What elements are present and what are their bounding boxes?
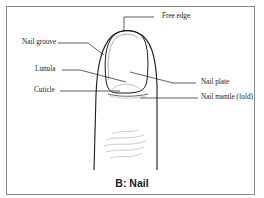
label-free-edge: Free edge: [162, 13, 190, 20]
nail-plate-outline: [105, 31, 148, 94]
label-nail-groove: Nail groove: [22, 39, 56, 46]
leader-nail-plate: [130, 72, 196, 83]
label-cuticle: Cuticle: [34, 87, 55, 94]
label-nail-plate: Nail plate: [201, 79, 229, 86]
cuticle: [108, 94, 148, 96]
leader-nail-groove: [58, 43, 104, 55]
label-nail-mantle: Nail mantle (fold): [201, 94, 253, 101]
knuckle-creases: [104, 130, 146, 158]
figure-caption: B: Nail: [0, 177, 264, 189]
lunula: [112, 84, 140, 90]
leader-lunula: [62, 70, 126, 82]
label-lunula: Lunula: [35, 66, 55, 73]
leader-free-edge: [124, 17, 154, 31]
